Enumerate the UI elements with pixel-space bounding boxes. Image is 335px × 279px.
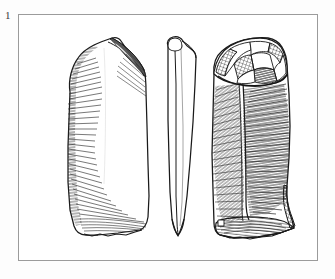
profile-view-group	[167, 37, 196, 236]
figure-number-label: 1	[5, 10, 11, 21]
ventral-base-notch	[218, 220, 224, 226]
facet-6	[251, 53, 274, 70]
figure-root: 1	[0, 0, 335, 279]
ventral-platform-group	[214, 38, 287, 86]
facet-8	[254, 68, 277, 83]
lithic-artifact-drawing	[18, 14, 318, 261]
profile-bulb	[168, 38, 182, 51]
dorsal-view-group	[68, 38, 149, 236]
ventral-view-group	[212, 38, 295, 239]
ventral-base-group	[216, 217, 294, 239]
